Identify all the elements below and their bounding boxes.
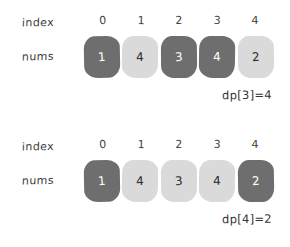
array-cell: 4 <box>199 36 236 79</box>
array-panel-second: index 0 1 2 3 4 nums 1 4 3 4 2 <box>0 124 290 247</box>
array-cell-value: 2 <box>252 174 261 188</box>
dp-array-diagram: index 0 1 2 3 4 nums 1 4 3 4 2 <box>0 0 290 247</box>
dp-annotation-second: dp[4]=2 <box>222 212 272 227</box>
array-cell-value: 3 <box>175 174 184 188</box>
index-cell: 2 <box>160 13 199 32</box>
index-cell: 1 <box>122 13 161 32</box>
index-row-label: index <box>22 140 83 154</box>
index-cell: 3 <box>198 137 237 157</box>
index-row-label: index <box>22 16 83 30</box>
array-cell-value: 4 <box>137 174 145 188</box>
array-cell-value: 3 <box>175 50 184 64</box>
array-cell: 3 <box>161 160 198 202</box>
index-row-first: 0 1 2 3 4 <box>84 14 274 32</box>
index-cell: 2 <box>160 137 199 156</box>
array-cell-value: 2 <box>252 50 261 64</box>
index-row-second: 0 1 2 3 4 <box>84 138 274 156</box>
array-cell: 4 <box>122 36 159 79</box>
nums-row-label: nums <box>22 174 83 188</box>
dp-annotation-first: dp[3]=4 <box>222 88 272 103</box>
index-cell: 1 <box>122 137 161 156</box>
array-cell-value: 1 <box>98 174 107 189</box>
nums-row-second: 1 4 3 4 2 <box>84 160 274 204</box>
array-cell: 1 <box>84 160 121 203</box>
array-cell: 2 <box>237 36 274 79</box>
array-cell-value: 4 <box>137 50 145 64</box>
index-cell: 4 <box>236 14 274 33</box>
array-cell: 3 <box>161 36 198 78</box>
nums-row-first: 1 4 3 4 2 <box>84 36 274 80</box>
array-cell: 4 <box>199 160 236 203</box>
index-cell: 3 <box>198 13 237 33</box>
array-cell-value: 1 <box>98 50 107 65</box>
array-panel-first: index 0 1 2 3 4 nums 1 4 3 4 2 <box>0 0 290 123</box>
index-cell: 0 <box>83 13 122 34</box>
array-cell-value: 4 <box>213 174 221 188</box>
index-cell: 4 <box>236 138 274 157</box>
array-cell: 2 <box>237 160 274 203</box>
index-cell: 0 <box>83 137 122 158</box>
array-cell-value: 4 <box>213 50 221 64</box>
array-cell: 1 <box>84 36 121 79</box>
array-cell: 4 <box>122 160 159 203</box>
nums-row-label: nums <box>22 50 83 64</box>
